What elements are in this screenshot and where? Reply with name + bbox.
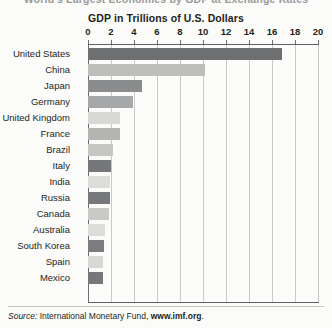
x-tick-label-8: 8 (177, 26, 182, 37)
x-tick-label-16: 16 (267, 26, 278, 37)
x-tick-label-12: 12 (221, 26, 232, 37)
category-label-france: France (0, 126, 70, 142)
x-tick-label-6: 6 (154, 26, 159, 37)
plot-area: United StatesChinaJapanGermanyUnited Kin… (88, 45, 318, 302)
bar-mexico (88, 272, 103, 284)
bar-japan (88, 80, 142, 92)
bar-row: South Korea (88, 238, 318, 254)
category-label-canada: Canada (0, 206, 70, 222)
bar-south-korea (88, 240, 104, 252)
chart-title: GDP in Trillions of U.S. Dollars (0, 12, 332, 24)
cropped-heading: World's Largest Economies by GDP at Exch… (0, 0, 332, 5)
bar-row: China (88, 62, 318, 78)
source-note: Source: International Monetary Fund, www… (8, 311, 204, 321)
source-divider (8, 306, 324, 307)
bar-row: Brazil (88, 142, 318, 158)
category-label-united-kingdom: United Kingdom (0, 110, 70, 126)
bar-row: United States (88, 46, 318, 62)
x-tick-label-2: 2 (108, 26, 113, 37)
bar-canada (88, 208, 109, 220)
x-tick-label-0: 0 (85, 26, 90, 37)
bar-row: Japan (88, 78, 318, 94)
bar-row: Canada (88, 206, 318, 222)
category-label-italy: Italy (0, 158, 70, 174)
category-label-spain: Spain (0, 254, 70, 270)
bar-row: Germany (88, 94, 318, 110)
source-label: Source: (8, 311, 37, 321)
bar-row: Russia (88, 190, 318, 206)
category-label-australia: Australia (0, 222, 70, 238)
x-axis-tick-labels: 02468101214161820 (88, 26, 318, 40)
category-label-mexico: Mexico (0, 270, 70, 286)
axis-bottom-rule (88, 302, 319, 303)
bar-brazil (88, 144, 113, 156)
gdp-bar-chart-figure: World's Largest Economies by GDP at Exch… (0, 0, 332, 328)
bar-india (88, 176, 110, 188)
category-label-brazil: Brazil (0, 142, 70, 158)
x-tick-label-10: 10 (198, 26, 209, 37)
category-label-china: China (0, 62, 70, 78)
bar-italy (88, 160, 111, 172)
category-label-russia: Russia (0, 190, 70, 206)
bar-row: India (88, 174, 318, 190)
bar-row: Spain (88, 254, 318, 270)
bar-spain (88, 256, 103, 268)
bar-united-states (88, 48, 282, 60)
x-tick-label-20: 20 (313, 26, 324, 37)
source-period: . (201, 311, 203, 321)
x-tick-label-14: 14 (244, 26, 255, 37)
bar-france (88, 128, 120, 140)
category-label-united-states: United States (0, 46, 70, 62)
source-body: International Monetary Fund, (37, 311, 150, 321)
bar-united-kingdom (88, 112, 120, 124)
category-label-india: India (0, 174, 70, 190)
bar-australia (88, 224, 105, 236)
gridline-20 (318, 45, 319, 302)
category-label-south-korea: South Korea (0, 238, 70, 254)
source-url: www.imf.org (151, 311, 202, 321)
bar-row: Mexico (88, 270, 318, 286)
bar-china (88, 64, 205, 76)
bar-russia (88, 192, 110, 204)
category-label-germany: Germany (0, 94, 70, 110)
bar-germany (88, 96, 133, 108)
category-label-japan: Japan (0, 78, 70, 94)
bar-row: Australia (88, 222, 318, 238)
x-tick-label-4: 4 (131, 26, 136, 37)
bar-row: France (88, 126, 318, 142)
bar-row: United Kingdom (88, 110, 318, 126)
bar-row: Italy (88, 158, 318, 174)
x-tick-label-18: 18 (290, 26, 301, 37)
